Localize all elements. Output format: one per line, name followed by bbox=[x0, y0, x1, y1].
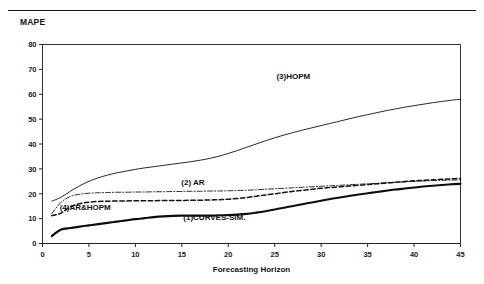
series-line-2 bbox=[52, 178, 461, 215]
x-axis-title: Forecasting Horizon bbox=[213, 265, 290, 274]
y-axis-tick-label: 0 bbox=[32, 239, 36, 248]
y-axis-tick-label: 20 bbox=[28, 190, 36, 199]
x-axis-tick-label: 20 bbox=[224, 250, 232, 259]
y-axis-tick-label: 10 bbox=[28, 214, 36, 223]
series-label-0: (3)HOPM bbox=[276, 72, 310, 81]
x-axis-tick-label: 15 bbox=[178, 250, 186, 259]
line-chart: 01020304050607080051015202530354045(3)HO… bbox=[0, 0, 484, 284]
series-label-3: (1)CURVES-SIM. bbox=[183, 213, 245, 222]
series-label-1: (2) AR bbox=[181, 178, 204, 187]
series-line-3 bbox=[52, 184, 461, 236]
y-axis-tick-label: 80 bbox=[28, 40, 36, 49]
chart-container: 01020304050607080051015202530354045(3)HO… bbox=[0, 0, 484, 284]
series-line-0 bbox=[52, 99, 461, 201]
x-axis-tick-label: 0 bbox=[40, 250, 44, 259]
series-label-2: (4)AR&HOPM bbox=[60, 203, 111, 212]
x-axis-tick-label: 40 bbox=[410, 250, 418, 259]
x-axis-tick-label: 25 bbox=[271, 250, 279, 259]
x-axis-tick-label: 30 bbox=[317, 250, 325, 259]
y-axis-tick-label: 50 bbox=[28, 115, 36, 124]
x-axis-tick-label: 35 bbox=[363, 250, 371, 259]
x-axis-tick-label: 45 bbox=[456, 250, 464, 259]
y-axis-tick-label: 70 bbox=[28, 65, 36, 74]
x-axis-tick-label: 5 bbox=[87, 250, 91, 259]
y-axis-tick-label: 60 bbox=[28, 90, 36, 99]
y-axis-tick-label: 30 bbox=[28, 165, 36, 174]
x-axis-tick-label: 10 bbox=[131, 250, 139, 259]
y-axis-tick-label: 40 bbox=[28, 140, 36, 149]
